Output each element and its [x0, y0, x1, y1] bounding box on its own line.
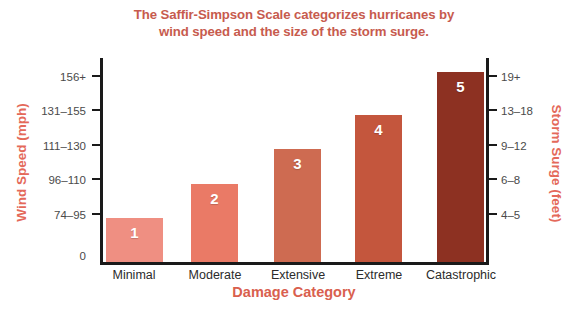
- y-axis-left-tick-label: 74–95: [26, 209, 86, 221]
- bar-extreme[interactable]: 4: [355, 115, 402, 262]
- y-axis-left-title: Wind Speed (mph): [14, 68, 29, 258]
- y-axis-left-tick: [92, 178, 100, 180]
- bar-extensive[interactable]: 3: [274, 149, 321, 262]
- y-axis-right-tick: [489, 144, 497, 146]
- x-axis-title: Damage Category: [104, 284, 484, 300]
- chart-title: The Saffir-Simpson Scale categorizes hur…: [104, 6, 484, 40]
- y-axis-left-line: [100, 58, 103, 265]
- y-axis-right-tick: [489, 213, 497, 215]
- x-axis-line: [100, 262, 489, 265]
- y-axis-right-tick-label: 13–18: [501, 105, 563, 117]
- bar-moderate[interactable]: 2: [191, 184, 238, 262]
- y-axis-right-tick-label: 19+: [501, 71, 563, 83]
- y-axis-left-tick-label: 96–110: [26, 174, 86, 186]
- y-axis-right-tick-label: 9–12: [501, 140, 563, 152]
- saffir-simpson-chart: The Saffir-Simpson Scale categorizes hur…: [0, 0, 574, 315]
- y-axis-left-tick-label: 131–155: [26, 105, 86, 117]
- bar-catastrophic[interactable]: 5: [437, 72, 484, 262]
- y-axis-left-tick-label: 156+: [26, 71, 86, 83]
- bar-value-label: 3: [274, 155, 321, 172]
- y-axis-left-tick: [92, 144, 100, 146]
- chart-title-line-1: The Saffir-Simpson Scale categorizes hur…: [134, 7, 454, 22]
- x-axis-label-catastrophic: Catastrophic: [411, 268, 511, 282]
- bar-value-label: 5: [437, 78, 484, 95]
- bar-value-label: 4: [355, 121, 402, 138]
- y-axis-left-tick: [92, 75, 100, 77]
- y-axis-left-tick-label: 0: [26, 250, 86, 262]
- y-axis-right-tick-label: 6–8: [501, 174, 563, 186]
- bar-value-label: 1: [106, 224, 163, 241]
- y-axis-right-tick: [489, 178, 497, 180]
- bar-value-label: 2: [191, 190, 238, 207]
- y-axis-right-line: [486, 58, 489, 265]
- y-axis-left-tick-label: 111–130: [26, 140, 86, 152]
- y-axis-right-tick-label: 4–5: [501, 209, 563, 221]
- bar-minimal[interactable]: 1: [106, 218, 163, 262]
- y-axis-right-title: Storm Surge (feet): [549, 69, 564, 259]
- y-axis-right-tick: [489, 75, 497, 77]
- chart-title-line-2: wind speed and the size of the storm sur…: [159, 24, 429, 39]
- y-axis-left-tick: [92, 213, 100, 215]
- y-axis-left-tick: [92, 109, 100, 111]
- y-axis-right-tick: [489, 109, 497, 111]
